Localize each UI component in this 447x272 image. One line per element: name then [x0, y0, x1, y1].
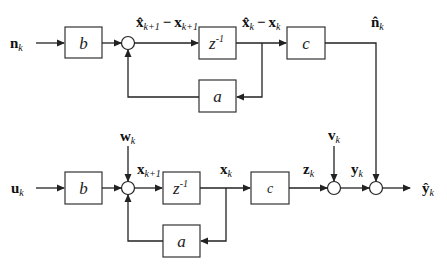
block-diagram: b z-1 c a nk x̂k+1−xk+1 x̂k−xk n̂k b z-1 — [0, 0, 447, 272]
top-branch: b z-1 c a nk x̂k+1−xk+1 x̂k−xk n̂k — [10, 14, 384, 181]
signal-y-hat: ŷk — [422, 180, 435, 198]
signal-y-k: yk — [351, 161, 364, 179]
signal-x-next: xk+1 — [137, 161, 161, 179]
sum-v-junction — [328, 182, 341, 195]
bottom-branch: b z-1 c a uk wk xk+1 xk zk vk yk ŷk — [11, 127, 435, 257]
signal-error-k: x̂k−xk — [242, 14, 281, 32]
top-summing-junction — [122, 37, 135, 50]
signal-z-k: zk — [303, 161, 315, 179]
signal-v-k: vk — [328, 127, 341, 145]
bottom-gain-a-label: a — [177, 232, 186, 251]
wire-branch-to-a-bottom — [201, 188, 226, 241]
signal-n-hat: n̂k — [371, 14, 384, 32]
sum-n-junction — [370, 182, 383, 195]
bottom-gain-c-label: c — [267, 181, 274, 196]
top-gain-c-label: c — [302, 34, 310, 53]
wire-a-to-sum-bottom — [128, 195, 163, 241]
wire-a-to-sum — [128, 50, 199, 97]
bottom-summing-junction — [122, 182, 135, 195]
signal-n-k: nk — [10, 35, 23, 53]
signal-u-k: uk — [11, 180, 24, 198]
top-gain-a-label: a — [213, 87, 222, 106]
signal-error-next: x̂k+1−xk+1 — [136, 14, 198, 32]
signal-w-k: wk — [120, 128, 136, 146]
top-gain-b-label: b — [79, 34, 88, 53]
signal-x-k: xk — [220, 161, 233, 179]
bottom-gain-b-label: b — [79, 179, 88, 198]
wire-branch-to-a — [237, 43, 262, 97]
